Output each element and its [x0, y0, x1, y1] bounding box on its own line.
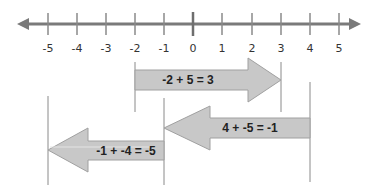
right-arrowhead-icon — [349, 18, 361, 30]
tick-label: -4 — [72, 42, 83, 55]
number-line: -5 -4 -3 -2 -1 0 1 2 3 4 5 — [17, 12, 361, 55]
arrow-neg2-plus-5: -2 + 5 = 3 — [135, 58, 281, 102]
tick-label: -3 — [101, 42, 112, 55]
tick-label: 5 — [336, 42, 343, 55]
tick-label: 0 — [190, 42, 197, 55]
equation-label: 4 + -5 = -1 — [222, 121, 278, 135]
left-arrowhead-icon — [17, 18, 29, 30]
equation-label: -1 + -4 = -5 — [96, 144, 156, 158]
arrow-4-plus-neg5: 4 + -5 = -1 — [164, 106, 310, 150]
tick-label: 4 — [307, 42, 314, 55]
tick-label: -1 — [159, 42, 170, 55]
arrow-neg1-plus-neg4: -1 + -4 = -5 — [48, 128, 164, 172]
number-line-diagram: -5 -4 -3 -2 -1 0 1 2 3 4 5 -2 + 5 = 3 4 … — [0, 0, 388, 194]
tick-label: 1 — [219, 42, 226, 55]
tick-labels: -5 -4 -3 -2 -1 0 1 2 3 4 5 — [43, 42, 343, 55]
equation-label: -2 + 5 = 3 — [162, 73, 214, 87]
tick-label: 2 — [249, 42, 256, 55]
tick-label: -5 — [43, 42, 54, 55]
tick-label: 3 — [278, 42, 285, 55]
tick-label: -2 — [130, 42, 141, 55]
